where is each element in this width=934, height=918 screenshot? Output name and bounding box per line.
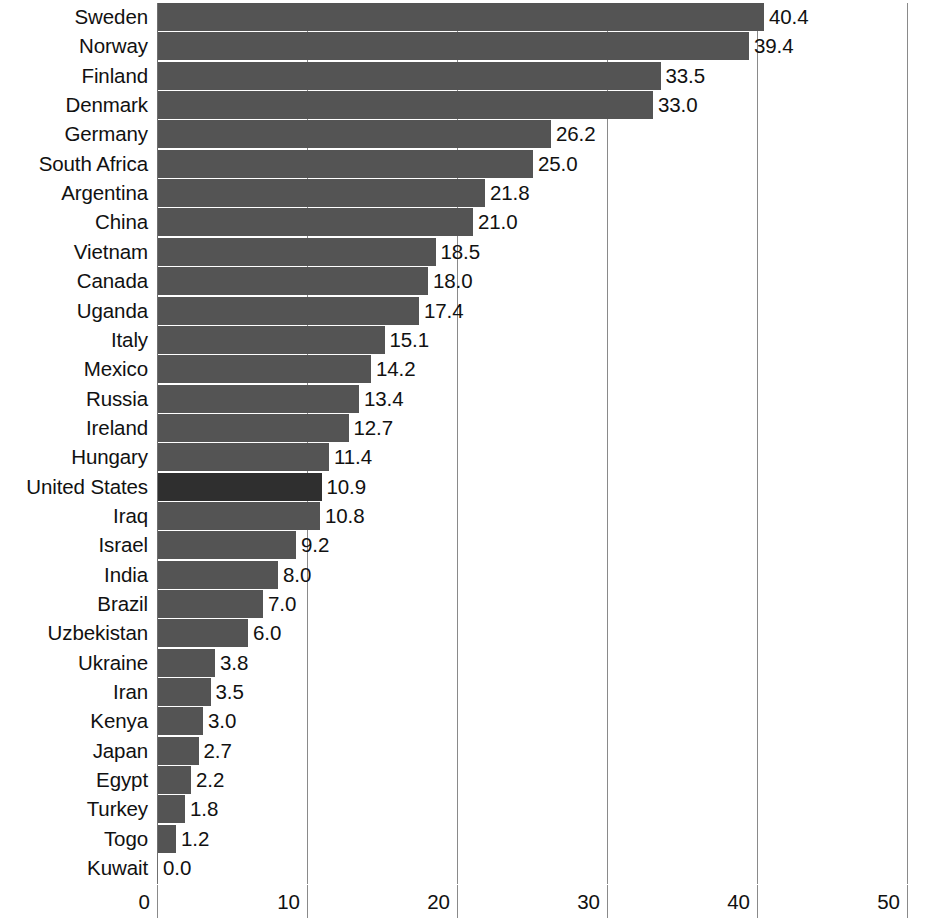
bar[interactable] [158,150,533,178]
category-label: Ireland [86,418,148,439]
bar-row[interactable]: Sweden40.4 [0,3,934,31]
bar-row[interactable]: India8.0 [0,561,934,589]
bar[interactable] [158,355,371,383]
bar-row[interactable]: Uzbekistan6.0 [0,619,934,647]
plot-area: Sweden40.4Norway39.4Finland33.5Denmark33… [0,0,934,885]
bar[interactable] [158,32,749,60]
bar-value-label: 3.8 [220,652,248,673]
bar[interactable] [158,766,191,794]
bar-value-label: 1.2 [181,829,209,850]
bar-value-label: 33.5 [666,65,706,86]
bar-row[interactable]: Denmark33.0 [0,91,934,119]
bar-row[interactable]: Hungary11.4 [0,443,934,471]
category-label: Brazil [97,594,148,615]
bar[interactable] [158,825,176,853]
bar-row[interactable]: Uganda17.4 [0,297,934,325]
x-tick-line-50 [907,885,908,918]
bar[interactable] [158,737,199,765]
bar[interactable] [158,208,473,236]
bar[interactable] [158,62,661,90]
bar-value-label: 2.2 [196,770,224,791]
bar-row[interactable]: Ukraine3.8 [0,649,934,677]
x-tick-line-10 [307,885,308,918]
bar[interactable] [158,238,436,266]
bar-row[interactable]: United States10.9 [0,473,934,501]
bar-row[interactable]: Ireland12.7 [0,414,934,442]
x-tick-label-10: 10 [277,892,307,913]
bar-row[interactable]: Iraq10.8 [0,502,934,530]
category-label: Israel [98,535,148,556]
bar-row[interactable]: Kuwait0.0 [0,854,934,882]
category-label: Canada [77,271,148,292]
bar-row[interactable]: Russia13.4 [0,385,934,413]
bar[interactable] [158,443,329,471]
category-label: Germany [64,124,148,145]
bar[interactable] [158,707,203,735]
bar-row[interactable]: Brazil7.0 [0,590,934,618]
category-label: China [95,212,148,233]
bar[interactable] [158,179,485,207]
bar-value-label: 3.0 [208,711,236,732]
bar-value-label: 2.7 [204,741,232,762]
bar-row[interactable]: Canada18.0 [0,267,934,295]
bar-row[interactable]: Vietnam18.5 [0,238,934,266]
bar[interactable] [158,502,320,530]
bar[interactable] [158,91,653,119]
bar-value-label: 17.4 [424,300,464,321]
bar-value-label: 18.5 [441,242,481,263]
bar-value-label: 0.0 [163,858,191,879]
bar-row[interactable]: Togo1.2 [0,825,934,853]
bar-value-label: 7.0 [268,594,296,615]
bar-row[interactable]: Iran3.5 [0,678,934,706]
bar-value-label: 40.4 [769,7,809,28]
category-label: Finland [81,65,148,86]
bar[interactable] [158,3,764,31]
bar[interactable] [158,414,349,442]
bar-value-label: 10.8 [325,506,365,527]
bar-value-label: 11.4 [334,447,372,468]
bar[interactable] [158,561,278,589]
bar[interactable] [158,590,263,618]
bar-row[interactable]: Italy15.1 [0,326,934,354]
category-label: Kuwait [87,858,148,879]
x-tick-label-30: 30 [577,892,607,913]
bar-value-label: 10.9 [327,476,367,497]
category-label: Iraq [113,506,148,527]
bar-value-label: 6.0 [253,623,281,644]
bar-row[interactable]: South Africa25.0 [0,150,934,178]
x-tick-label-40: 40 [727,892,757,913]
bar[interactable] [158,326,385,354]
category-label: South Africa [39,154,148,175]
category-label: Egypt [96,770,148,791]
bar[interactable] [158,619,248,647]
bar[interactable] [158,385,359,413]
bar-row[interactable]: Kenya3.0 [0,707,934,735]
bar[interactable] [158,297,419,325]
bar[interactable] [158,678,211,706]
bar-row[interactable]: China21.0 [0,208,934,236]
bar-row[interactable]: Norway39.4 [0,32,934,60]
category-label: Uganda [77,300,148,321]
bar-row[interactable]: Japan2.7 [0,737,934,765]
bar-value-label: 8.0 [283,564,311,585]
category-label: Togo [104,829,148,850]
bar-value-label: 3.5 [216,682,244,703]
category-label: Argentina [61,183,148,204]
bar-highlighted[interactable] [158,473,322,501]
bar[interactable] [158,531,296,559]
bar-row[interactable]: Argentina21.8 [0,179,934,207]
category-label: Iran [113,682,148,703]
bar-row[interactable]: Turkey1.8 [0,795,934,823]
bar[interactable] [158,120,551,148]
bar-value-label: 9.2 [301,535,329,556]
bar-row[interactable]: Finland33.5 [0,62,934,90]
bar-value-label: 14.2 [376,359,416,380]
bar-row[interactable]: Germany26.2 [0,120,934,148]
bar[interactable] [158,649,215,677]
bar-row[interactable]: Egypt2.2 [0,766,934,794]
bar-row[interactable]: Israel9.2 [0,531,934,559]
bar-row[interactable]: Mexico14.2 [0,355,934,383]
bar[interactable] [158,267,428,295]
category-label: Ukraine [78,652,148,673]
bar[interactable] [158,795,185,823]
